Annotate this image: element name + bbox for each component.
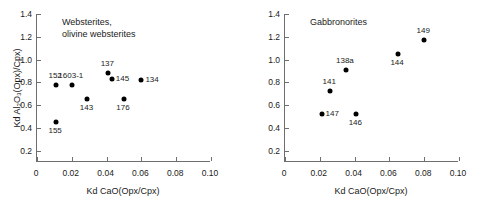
data-point-label: 147 [326,110,339,118]
y-tick [285,82,289,83]
data-point [54,82,59,87]
y-tick-label: 1.4 [268,10,280,19]
y-tick-label: 0.2 [20,146,32,155]
data-point [354,112,359,117]
x-tick-label: 0.10 [202,169,219,178]
y-tick [37,151,41,152]
x-tick [211,157,212,161]
x-axis-title: Kd CaO(Opx/Cpx) [334,186,407,196]
x-tick-label: 0 [34,169,39,178]
y-tick [37,128,41,129]
x-tick-label: 0.04 [345,169,362,178]
data-point [328,89,333,94]
y-tick-label: 1.0 [20,55,32,64]
tick-layer [285,14,458,161]
x-tick [285,157,286,161]
x-axis-title: Kd CaO(Opx/Cpx) [86,186,159,196]
y-tick-label: 1.0 [268,55,280,64]
figure-two-panel-scatter: Websterites, olivine websterites Kd Al₂O… [0,0,496,207]
x-tick-label: 0.02 [63,169,80,178]
data-point [396,51,401,56]
y-tick-label: 0.6 [20,101,32,110]
data-point-label: 137 [101,60,114,68]
data-point-label: 143 [80,104,93,112]
x-tick [72,157,73,161]
data-point [422,38,427,43]
x-tick [355,157,356,161]
y-tick [285,14,289,15]
data-point-label: 176 [116,104,129,112]
x-tick-label: 0.04 [97,169,114,178]
x-tick-label: 0.08 [415,169,432,178]
y-tick [285,151,289,152]
data-point-label: 144 [390,59,403,67]
data-point-label: 149 [417,27,430,35]
y-tick [37,105,41,106]
data-point-label: 1603-1 [58,72,83,80]
x-tick [176,157,177,161]
x-tick-label: 0.02 [311,169,328,178]
x-tick [389,157,390,161]
x-tick-label: 0 [282,169,287,178]
y-tick-label: 0.8 [20,78,32,87]
y-tick [37,82,41,83]
y-tick [285,105,289,106]
plot-area [284,14,458,162]
data-point [139,78,144,83]
data-point-label: 146 [349,119,362,127]
panel-gabbronorites: Gabbronorites Kd CaO(Opx/Cpx) 00.020.040… [248,0,496,207]
x-tick [141,157,142,161]
x-tick [320,157,321,161]
y-tick [285,128,289,129]
y-tick [37,60,41,61]
x-tick [459,157,460,161]
y-tick-label: 1.2 [20,33,32,42]
data-point [54,120,59,125]
plot-area [36,14,210,162]
x-tick-label: 0.10 [450,169,467,178]
data-point [343,67,348,72]
data-point [69,82,74,87]
y-tick [37,37,41,38]
data-point [319,111,324,116]
data-point-label: 134 [145,76,158,84]
data-point [106,71,111,76]
y-tick-label: 1.4 [20,10,32,19]
data-point [85,97,90,102]
y-tick [285,60,289,61]
x-tick [37,157,38,161]
y-tick-label: 1.2 [268,33,280,42]
data-point-label: 138a [336,57,354,65]
x-tick-label: 0.06 [380,169,397,178]
y-tick-label: 0.4 [268,124,280,133]
data-point-label: 141 [323,78,336,86]
tick-layer [37,14,210,161]
x-tick-label: 0.08 [167,169,184,178]
x-tick [107,157,108,161]
y-tick-label: 0.6 [268,101,280,110]
data-point [109,76,114,81]
y-tick [285,37,289,38]
panel-websterites: Websterites, olivine websterites Kd Al₂O… [0,0,248,207]
data-point-label: 145 [116,75,129,83]
y-tick-label: 0.2 [268,146,280,155]
data-point-label: 155 [48,127,61,135]
y-tick-label: 0.8 [268,78,280,87]
x-tick [424,157,425,161]
y-tick [37,14,41,15]
data-point [122,97,127,102]
y-tick-label: 0.4 [20,124,32,133]
x-tick-label: 0.06 [132,169,149,178]
